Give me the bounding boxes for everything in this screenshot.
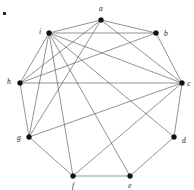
graph-figure: abcdefghi [0,0,194,190]
graph-vertex-label-i: i [39,27,41,36]
graph-vertex-f[interactable] [71,174,76,179]
graph-vertex-label-g: g [17,133,21,142]
graph-vertex-c[interactable] [180,81,185,86]
graph-canvas: abcdefghi [0,0,194,190]
graph-vertex-label-d: d [182,136,186,145]
graph-vertex-label-c: c [187,79,191,88]
graph-edge-c-g [29,83,182,137]
graph-vertex-label-b: b [164,29,168,38]
graph-edge-b-c [156,33,182,83]
graph-edge-i-a [49,20,101,33]
graph-edge-c-i [49,33,182,83]
graph-vertex-label-e: e [128,181,132,190]
graph-edge-d-e [130,137,174,176]
graph-vertex-i[interactable] [47,31,52,36]
graph-edge-f-g [29,137,73,176]
graph-vertex-g[interactable] [27,135,32,140]
graph-vertex-a[interactable] [99,18,104,23]
graph-vertex-e[interactable] [128,174,133,179]
graph-vertex-label-h: h [7,77,11,86]
graph-vertex-label-f: f [72,181,75,190]
graph-vertex-b[interactable] [154,31,159,36]
graph-edge-h-i [20,33,49,83]
graph-edge-a-g [29,20,101,137]
graph-edge-a-h [20,20,101,83]
graph-edge-g-i [29,33,49,137]
graph-edge-c-d [174,83,182,137]
graph-edge-d-i [49,33,174,137]
edge-layer [20,20,182,176]
graph-edge-b-h [20,33,156,83]
graph-edge-g-h [20,83,29,137]
graph-edge-c-f [73,83,182,176]
graph-vertex-d[interactable] [172,135,177,140]
graph-vertex-h[interactable] [18,81,23,86]
node-layer [18,18,185,179]
graph-vertex-label-a: a [99,4,103,13]
label-layer: abcdefghi [7,4,191,190]
